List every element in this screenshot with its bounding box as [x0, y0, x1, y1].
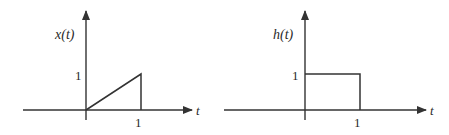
h-plot-xtick-label: 1: [354, 115, 361, 130]
plot-x: x(t) 1 1 t: [23, 11, 200, 130]
h-plot-rect-pulse: [305, 74, 360, 110]
x-plot-xlabel: t: [196, 103, 200, 118]
x-plot-ylabel: x(t): [54, 27, 75, 43]
h-plot-xlabel: t: [430, 103, 434, 118]
x-plot-ramp-signal: [86, 74, 141, 110]
plot-h: h(t) 1 1 t: [224, 11, 434, 130]
h-plot-ylabel: h(t): [273, 27, 294, 43]
signal-diagram: x(t) 1 1 t h(t) 1 1 t: [0, 0, 449, 135]
h-plot-ytick-label: 1: [292, 68, 299, 83]
x-plot-ytick-label: 1: [75, 68, 82, 83]
x-plot-xtick-label: 1: [135, 115, 142, 130]
